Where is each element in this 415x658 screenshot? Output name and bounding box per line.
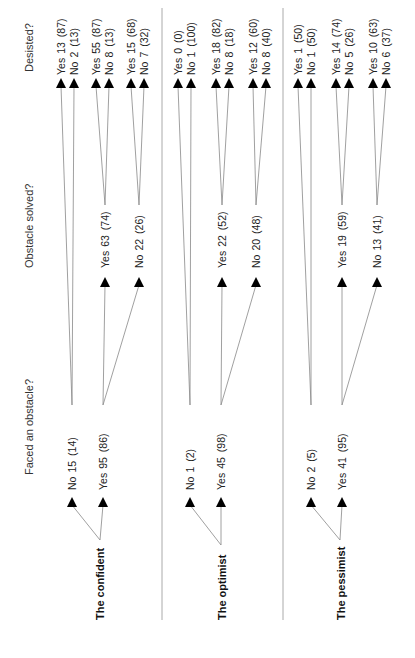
tree-edge [103, 285, 105, 405]
desisted-leaf-node: Yes14(74) [330, 18, 342, 75]
tree-edge [61, 86, 72, 405]
node-answer: No [260, 61, 272, 75]
desisted-leaf-node: Yes13(87) [55, 18, 67, 75]
group-tree: The optimistNo1(2)Yes45(98)Yes22(52)No20… [172, 18, 272, 620]
node-answer: No [305, 61, 317, 75]
svg-text:No1(100): No1(100) [185, 22, 197, 75]
header-desisted: Desisted? [23, 23, 35, 72]
svg-text:No8(13): No8(13) [103, 28, 115, 75]
tree-edge [342, 86, 349, 205]
tree-edge [340, 505, 342, 540]
node-answer: Yes [292, 58, 304, 75]
node-answer: No [305, 476, 317, 490]
tree-edge [221, 285, 222, 405]
node-count: 1 [185, 52, 197, 58]
node-count: 15 [66, 461, 78, 473]
node-count: 20 [250, 239, 262, 251]
tree-edge [373, 86, 377, 205]
node-count: 18 [210, 42, 222, 54]
node-answer: Yes [336, 473, 348, 490]
node-count: 12 [247, 42, 259, 54]
arrowhead-icon [100, 277, 110, 287]
desisted-leaf-node: No1(50) [305, 28, 317, 75]
desisted-leaf-node: No2(13) [68, 28, 80, 75]
tree-edge [72, 86, 74, 405]
faced-no-node: No2(5) [305, 449, 317, 490]
node-count: 15 [125, 42, 137, 54]
node-percent: (86) [97, 433, 109, 452]
node-count: 6 [380, 52, 392, 58]
tree-edge [178, 86, 190, 405]
arrowhead-icon [344, 78, 354, 88]
tree-edge [298, 86, 311, 405]
svg-text:Yes14(74): Yes14(74) [330, 18, 342, 75]
node-answer: No [185, 61, 197, 75]
desisted-leaf-node: Yes1(50) [292, 24, 304, 75]
arrowhead-icon [306, 78, 316, 88]
svg-text:Yes0(0): Yes0(0) [172, 30, 184, 75]
node-answer: Yes [330, 58, 342, 75]
node-percent: (37) [380, 28, 392, 47]
node-answer: Yes [247, 58, 259, 75]
svg-text:No1(50): No1(50) [305, 28, 317, 75]
node-count: 7 [138, 52, 150, 58]
svg-text:No2(13): No2(13) [68, 28, 80, 75]
svg-text:Yes1(50): Yes1(50) [292, 24, 304, 75]
arrowhead-icon [368, 78, 378, 88]
node-percent: (40) [260, 28, 272, 47]
arrowhead-icon [293, 78, 303, 88]
svg-text:Yes12(60): Yes12(60) [247, 18, 259, 75]
node-percent: (13) [68, 28, 80, 47]
svg-text:No13(41): No13(41) [371, 215, 383, 268]
desisted-leaf-node: Yes12(60) [247, 18, 259, 75]
node-answer: Yes [215, 473, 227, 490]
arrowhead-icon [248, 78, 258, 88]
tree-edge [216, 86, 222, 205]
arrowhead-icon [372, 277, 382, 287]
svg-text:Yes13(87): Yes13(87) [55, 18, 67, 75]
node-count: 19 [336, 235, 348, 247]
desisted-leaf-node: Yes18(82) [210, 18, 222, 75]
node-answer: Yes [367, 58, 379, 75]
svg-text:Yes63(74): Yes63(74) [99, 211, 111, 268]
node-count: 95 [97, 457, 109, 469]
desisted-leaf-node: Yes0(0) [172, 30, 184, 75]
group-tree: The pessimistNo2(5)Yes41(95)Yes19(59)No1… [292, 18, 392, 620]
tree-edge [100, 505, 103, 540]
tree-edge [336, 86, 342, 205]
arrowhead-icon [185, 497, 195, 507]
node-percent: (95) [336, 433, 348, 452]
arrowhead-icon [98, 497, 108, 507]
node-count: 63 [99, 235, 111, 247]
arrowhead-icon [216, 497, 226, 507]
tree-edge [96, 86, 105, 205]
node-count: 10 [367, 42, 379, 54]
svg-text:No22(26): No22(26) [133, 215, 145, 268]
node-percent: (14) [66, 437, 78, 456]
node-answer: Yes [125, 58, 137, 75]
node-percent: (32) [138, 28, 150, 47]
solved-yes-node: Yes63(74) [99, 211, 111, 268]
arrowhead-icon [134, 277, 144, 287]
node-count: 5 [343, 52, 355, 58]
tree-edge [222, 86, 229, 205]
solved-no-node: No20(48) [250, 215, 262, 268]
node-count: 8 [260, 52, 272, 58]
svg-text:Yes45(98): Yes45(98) [215, 433, 227, 490]
svg-text:No7(32): No7(32) [138, 28, 150, 75]
node-answer: No [343, 61, 355, 75]
faced-yes-node: Yes95(86) [97, 433, 109, 490]
node-percent: (5) [305, 449, 317, 462]
node-answer: No [66, 476, 78, 490]
tree-edge [72, 505, 100, 540]
arrowhead-icon [337, 277, 347, 287]
tree-edge [190, 86, 191, 405]
node-percent: (2) [184, 449, 196, 462]
node-percent: (50) [292, 24, 304, 43]
desisted-leaf-node: Yes55(87) [90, 18, 102, 75]
node-count: 14 [330, 42, 342, 54]
solved-yes-node: Yes19(59) [336, 211, 348, 268]
tree-edge [131, 86, 139, 205]
arrowhead-icon [306, 497, 316, 507]
node-answer: No [380, 61, 392, 75]
